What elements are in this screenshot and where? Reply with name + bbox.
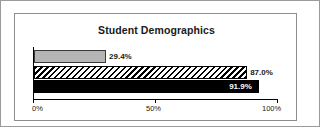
x-tick-label-50: 50% (146, 104, 161, 113)
bar-value-label-2: 87.0% (250, 68, 273, 77)
x-tick-mark-100 (277, 100, 278, 103)
x-tick-label-0: 0% (32, 104, 43, 113)
bar-series-3[interactable] (34, 80, 259, 93)
chart-title: Student Demographics (15, 24, 298, 36)
bar-series-1[interactable] (34, 50, 106, 63)
x-tick-mark-0 (33, 100, 34, 103)
x-tick-label-100: 100% (262, 104, 281, 113)
chart-container: Student Demographics 0% 50% 100% 29.4% 8… (14, 13, 297, 121)
bar-series-2[interactable] (34, 66, 247, 79)
x-tick-mark-50 (155, 100, 156, 103)
outer-border: Student Demographics 0% 50% 100% 29.4% 8… (0, 0, 320, 127)
bar-value-label-3: 91.9% (229, 82, 252, 91)
plot-area: 0% 50% 100% 29.4% 87.0% 91.9% (33, 47, 278, 105)
bar-value-label-1: 29.4% (109, 52, 132, 61)
